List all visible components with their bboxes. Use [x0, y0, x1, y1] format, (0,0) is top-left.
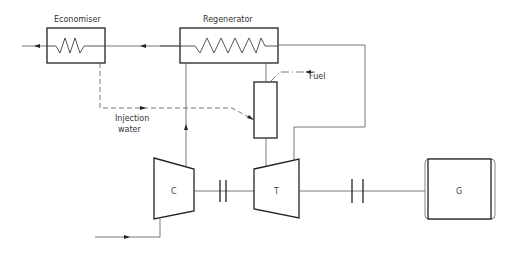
arrow-icon [247, 115, 254, 120]
injection-label-line2: water [118, 125, 142, 134]
regenerator: Regenerator [160, 15, 278, 63]
injection-water-line: Injection water [100, 63, 254, 134]
arrow-right-icon [124, 235, 130, 239]
fuel-label: Fuel [309, 72, 325, 81]
arrow-left-icon [34, 44, 40, 48]
air-inlet-line [95, 219, 160, 239]
shaft-coupling-tg [299, 179, 425, 203]
turbine: T [254, 159, 299, 218]
regenerator-label: Regenerator [203, 15, 253, 24]
fuel-line: Fuel [270, 70, 325, 82]
economiser: Economiser [47, 15, 105, 63]
arrow-right-icon [140, 106, 146, 110]
generator-label: G [456, 187, 462, 196]
shaft-coupling-ct [194, 180, 254, 202]
gas-turbine-diagram: Economiser Regenerator Fuel Injection wa… [0, 0, 516, 253]
exhaust-line [22, 44, 47, 48]
injection-label-line1: Injection [115, 114, 149, 123]
compressor: C [154, 158, 194, 219]
compressor-to-regen-line [184, 63, 188, 176]
turbine-exhaust-line [278, 45, 365, 160]
economiser-label: Economiser [54, 15, 101, 24]
arrow-left-icon [140, 44, 146, 48]
arrow-up-icon [184, 124, 188, 130]
turbine-label: T [273, 187, 279, 196]
combustor [254, 82, 277, 138]
generator: G [425, 159, 495, 219]
compressor-label: C [171, 187, 177, 196]
